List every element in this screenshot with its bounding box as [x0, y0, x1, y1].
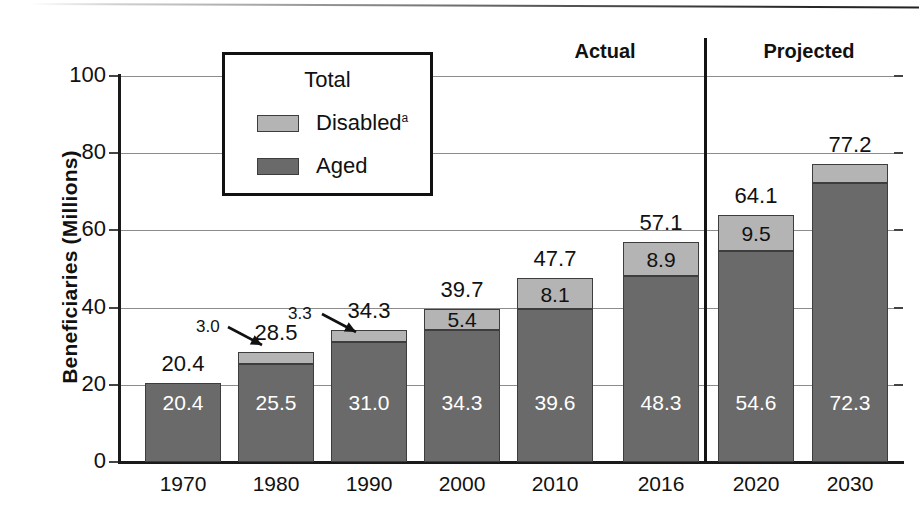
x-tick-label-2030: 2030: [802, 472, 898, 496]
y-tick-label-40: 40: [54, 296, 106, 318]
bar-segment-aged-2020: 54.6: [718, 251, 794, 462]
bar-label-aged-2020: 54.6: [719, 392, 793, 413]
bar-segment-disabled-2000: 5.4: [424, 309, 500, 330]
legend-item-aged: Aged: [257, 153, 367, 179]
bar-segment-aged-1980: 25.5: [238, 364, 314, 462]
bar-2000: 5.434.3: [424, 309, 500, 462]
y-tick-100: [109, 75, 118, 77]
y-tick-0: [109, 461, 118, 463]
actual-projected-divider: [704, 38, 707, 462]
bar-segment-disabled-2010: 8.1: [517, 278, 593, 309]
bar-2016: 8.948.3: [623, 242, 699, 462]
legend-item-disabled: Disableda: [257, 110, 408, 136]
bar-1980: 25.5: [238, 352, 314, 462]
y-tick-label-0: 0: [54, 450, 106, 472]
bar-segment-aged-1990: 31.0: [331, 342, 407, 462]
bar-label-disabled-2016: 8.9: [624, 249, 698, 270]
y-tick-60: [109, 229, 118, 231]
y-tick-label-60: 60: [54, 218, 106, 240]
bar-1970: 20.4: [145, 383, 221, 462]
y-tick-20: [109, 384, 118, 386]
legend-label-disabled: Disableda: [316, 110, 408, 136]
y-tick-right-100: [894, 75, 903, 77]
bar-total-label-2016: 57.1: [615, 212, 707, 234]
y-tick-right-20: [894, 384, 903, 386]
bar-segment-disabled-1990: [331, 330, 407, 343]
bar-label-aged-2030: 72.3: [813, 392, 887, 413]
legend-swatch-aged-icon: [257, 158, 299, 175]
bar-segment-aged-2030: 72.3: [812, 183, 888, 462]
bar-total-label-2030: 77.2: [804, 134, 896, 156]
bar-segment-disabled-2016: 8.9: [623, 242, 699, 276]
callout-label-1990: 3.3: [288, 305, 312, 322]
section-label-actual: Actual: [520, 40, 690, 63]
x-tick-label-2016: 2016: [613, 472, 709, 496]
legend-label-aged: Aged: [316, 153, 367, 179]
bar-label-aged-1970: 20.4: [146, 392, 220, 413]
bar-1990: 31.0: [331, 330, 407, 462]
x-tick-label-1970: 1970: [135, 472, 231, 496]
bar-2020: 9.554.6: [718, 215, 794, 462]
bar-total-label-1970: 20.4: [137, 353, 229, 375]
y-tick-right-60: [894, 229, 903, 231]
y-axis-line: [118, 74, 121, 464]
bar-label-disabled-2020: 9.5: [719, 223, 793, 244]
section-label-projected: Projected: [714, 40, 904, 63]
bar-total-label-2010: 47.7: [509, 248, 601, 270]
y-tick-80: [109, 152, 118, 154]
y-tick-right-40: [894, 307, 903, 309]
bar-label-disabled-2010: 8.1: [518, 284, 592, 305]
bar-total-label-1980: 28.5: [230, 322, 322, 344]
y-tick-label-20: 20: [54, 373, 106, 395]
x-tick-label-1990: 1990: [321, 472, 417, 496]
x-tick-label-2020: 2020: [708, 472, 804, 496]
legend-title: Total: [225, 67, 430, 93]
bar-label-aged-1980: 25.5: [239, 392, 313, 413]
y-tick-label-80: 80: [54, 141, 106, 163]
scan-artifact-line: [30, 3, 919, 8]
chart-legend: Total Disableda Aged: [222, 52, 433, 196]
callout-label-1980: 3.0: [196, 318, 220, 335]
bar-total-label-2020: 64.1: [710, 185, 802, 207]
bar-2030: 72.3: [812, 164, 888, 462]
bar-label-aged-2000: 34.3: [425, 392, 499, 413]
bar-segment-aged-2016: 48.3: [623, 276, 699, 462]
bar-label-aged-2010: 39.6: [518, 392, 592, 413]
x-tick-label-2010: 2010: [507, 472, 603, 496]
bar-2010: 8.139.6: [517, 278, 593, 462]
x-tick-label-2000: 2000: [414, 472, 510, 496]
y-tick-40: [109, 307, 118, 309]
bar-label-aged-1990: 31.0: [332, 392, 406, 413]
x-tick-label-1980: 1980: [228, 472, 324, 496]
bar-label-disabled-2000: 5.4: [425, 309, 499, 330]
bar-segment-disabled-1980: [238, 352, 314, 364]
bar-segment-disabled-2020: 9.5: [718, 215, 794, 252]
bar-segment-aged-2000: 34.3: [424, 330, 500, 462]
bar-total-label-2000: 39.7: [416, 279, 508, 301]
y-tick-label-100: 100: [54, 64, 106, 86]
bar-segment-disabled-2030: [812, 164, 888, 183]
bar-segment-aged-2010: 39.6: [517, 309, 593, 462]
bar-label-aged-2016: 48.3: [624, 392, 698, 413]
legend-swatch-disabled-icon: [257, 115, 299, 132]
chart-container: Beneficiaries (Millions) 020406080100 Ac…: [0, 0, 919, 523]
bar-total-label-1990: 34.3: [323, 300, 415, 322]
bar-segment-aged-1970: 20.4: [145, 383, 221, 462]
